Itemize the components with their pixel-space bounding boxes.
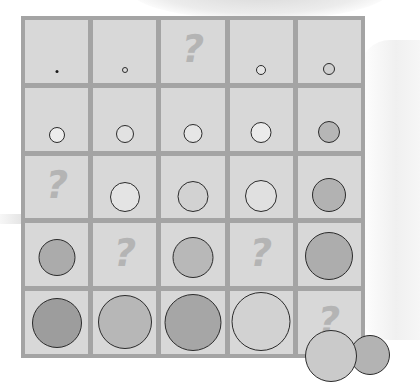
circle-shape [232,292,291,351]
grid-cell-r0-c2[interactable]: ? [161,20,224,83]
answer-circle-1[interactable] [305,330,357,382]
grid-cell-r0-c0 [25,20,88,83]
circle-shape [172,237,213,278]
question-mark-icon: ? [179,31,208,69]
grid-cell-r1-c1 [93,88,156,151]
grid-cell-r1-c0 [25,88,88,151]
circle-shape [245,180,277,212]
grid-cell-r3-c0 [25,223,88,286]
grid-cell-r3-c3[interactable]: ? [230,223,293,286]
grid-cell-r0-c1 [93,20,156,83]
grid-cell-r2-c1 [93,156,156,219]
question-mark-icon: ? [110,234,139,272]
circle-shape [49,127,65,143]
grid-cell-r4-c1 [93,291,156,354]
circle-shape [122,67,128,73]
grid-cell-r4-c2 [161,291,224,354]
circle-shape [55,70,58,73]
circle-shape [183,124,202,143]
grid-cell-r2-c4 [298,156,361,219]
circle-shape [256,65,266,75]
circle-shape [323,63,335,75]
circle-shape [318,121,340,143]
grid-cell-r4-c3 [230,291,293,354]
question-mark-icon: ? [42,166,71,204]
grid-cell-r1-c4 [298,88,361,151]
grid-cell-r3-c2 [161,223,224,286]
grid-cell-r1-c2 [161,88,224,151]
puzzle-grid: ????? [21,16,365,358]
grid-cell-r3-c1[interactable]: ? [93,223,156,286]
circle-shape [177,181,208,212]
grid-cell-r2-c3 [230,156,293,219]
circle-shape [32,298,82,348]
grid-cell-r2-c0[interactable]: ? [25,156,88,219]
question-mark-icon: ? [247,234,276,272]
grid-cell-r1-c3 [230,88,293,151]
circle-shape [164,294,221,351]
circle-shape [305,232,353,280]
grid-cell-r0-c3 [230,20,293,83]
circle-shape [110,182,140,212]
circle-shape [116,125,134,143]
circle-shape [38,239,75,276]
grid-cell-r4-c0 [25,291,88,354]
grid-cell-r3-c4 [298,223,361,286]
grid-cell-r2-c2 [161,156,224,219]
background-swoosh-right [360,40,420,340]
circle-shape [98,295,152,349]
circle-shape [251,122,272,143]
circle-shape [312,178,346,212]
grid-cell-r0-c4 [298,20,361,83]
